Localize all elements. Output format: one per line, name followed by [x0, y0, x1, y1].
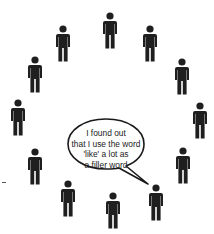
person-icon — [142, 25, 158, 63]
diagram-canvas: I found out that I use the word 'like' a… — [0, 0, 214, 234]
speech-bubble: I found out that I use the word 'like' a… — [64, 116, 156, 188]
bubble-line: that I use the word — [70, 139, 142, 150]
person-icon — [27, 148, 43, 186]
bubble-line: I found out — [70, 128, 142, 139]
bubble-line: a filler word — [70, 160, 142, 171]
person-icon — [192, 102, 208, 140]
person-icon — [105, 192, 121, 230]
person-icon — [102, 12, 118, 50]
person-icon — [175, 147, 191, 185]
speech-bubble-text: I found out that I use the word 'like' a… — [70, 128, 142, 170]
person-icon — [55, 25, 71, 63]
person-icon — [148, 184, 164, 222]
person-icon — [174, 58, 190, 96]
person-icon — [27, 56, 43, 94]
person-icon — [10, 99, 26, 137]
bubble-line: 'like' a lot as — [70, 149, 142, 160]
stray-mark — [2, 182, 6, 183]
